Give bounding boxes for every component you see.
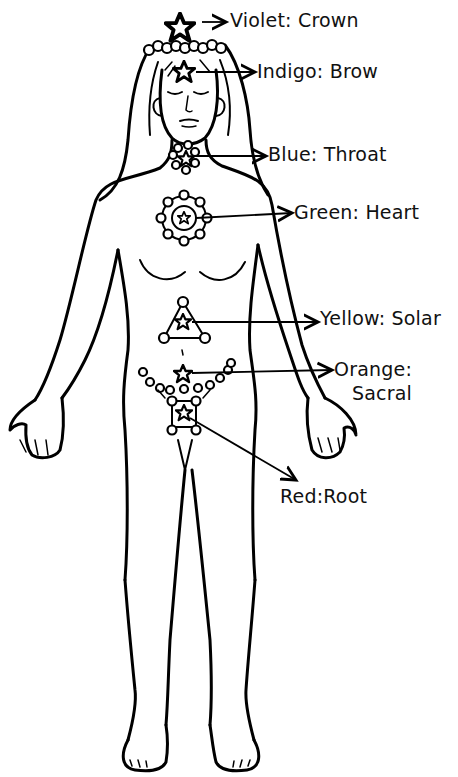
right-leg-outer xyxy=(246,580,255,740)
label-indigo-brow: Indigo: Brow xyxy=(257,61,378,82)
chakra-root-symbol xyxy=(158,390,296,480)
label-sacral-line2: Sacral xyxy=(352,383,412,404)
torso-right xyxy=(249,245,258,580)
hair-left xyxy=(100,48,150,200)
torso-left xyxy=(118,250,128,580)
label-yellow-solar: Yellow: Solar xyxy=(320,308,441,329)
left-arm-inner xyxy=(62,250,118,398)
label-violet-crown: Violet: Crown xyxy=(230,10,359,31)
left-leg-inner xyxy=(166,470,185,725)
chakra-crown-symbol xyxy=(144,14,226,55)
label-orange-line1: Orange: xyxy=(334,359,412,380)
label-blue-throat: Blue: Throat xyxy=(268,144,387,165)
right-arm-outer xyxy=(206,140,325,398)
mouth xyxy=(180,120,198,122)
eye-left xyxy=(168,92,182,94)
nose xyxy=(186,96,192,112)
label-red-root: Red:Root xyxy=(280,486,367,507)
feet xyxy=(123,725,258,771)
left-arm-outer xyxy=(35,140,172,400)
head xyxy=(100,45,268,200)
eye-right xyxy=(194,92,208,94)
right-leg-inner xyxy=(192,470,212,725)
label-green-heart: Green: Heart xyxy=(294,202,419,223)
left-leg-outer xyxy=(125,580,135,740)
chakra-brow-symbol xyxy=(173,61,255,81)
